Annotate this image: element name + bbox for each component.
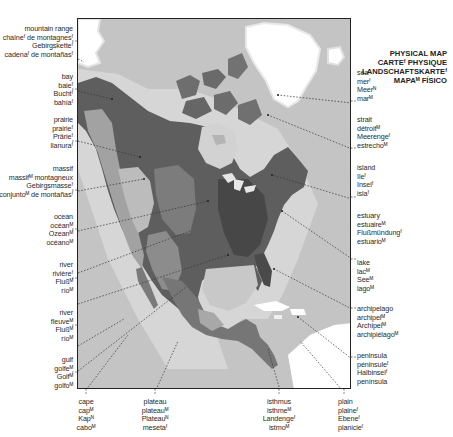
term-es: planicieᶠ xyxy=(338,424,363,433)
term-es: archipiélagoᴹ xyxy=(357,331,398,340)
term-es: lagoᴹ xyxy=(357,285,374,294)
label-mountain-range: mountain range chaîneᶠ de montagnesᶠ Geb… xyxy=(3,25,73,59)
label-isthmus: isthmus isthmeᴹ Landengeᶠ istmoᴹ xyxy=(252,398,306,432)
relief-map xyxy=(78,19,351,389)
term-es: mesetaᶠ xyxy=(130,424,180,433)
title-french: CARTEᶠ PHYSIQUE xyxy=(362,58,447,67)
term-es: península xyxy=(357,378,388,387)
term-es: ríoᴹ xyxy=(51,335,73,344)
label-gulf: gulf golfeᴹ Golfᴹ golfoᴹ xyxy=(54,356,73,390)
term-es: golfoᴹ xyxy=(54,382,73,391)
term-es: islaᶠ xyxy=(357,190,375,199)
label-massif: massif massifᴹ montagneux Gebirgsmasseᶠ … xyxy=(0,165,73,199)
label-river-tributary: river rivièreᶠ Flußᴹ ríoᴹ xyxy=(53,261,73,295)
term-es: conjuntoᴹ de montañasᶠ xyxy=(0,191,73,200)
label-strait: strait détroitᴹ Meerengeᶠ estrechoᴹ xyxy=(357,116,390,150)
term-es: océanoᴹ xyxy=(46,239,73,248)
label-ocean: ocean océanᴹ Ozeanᴹ océanoᴹ xyxy=(46,213,73,247)
term-es: llanuraᶠ xyxy=(51,142,73,151)
label-cape: cape capᴹ Kapᴺ caboᴹ xyxy=(66,398,106,432)
label-plateau: plateau plateauᴹ Plateauᴺ mesetaᶠ xyxy=(130,398,180,432)
term-es: ríoᴹ xyxy=(53,287,73,296)
label-sea: sea merᶠ Meerᴺ marᴹ xyxy=(357,69,376,103)
label-prairie: prairie prairieᶠ Prärieᶠ llanuraᶠ xyxy=(51,116,73,150)
physical-map-north-america xyxy=(77,18,351,389)
label-river-main: river fleuveᴹ Flußᴹ ríoᴹ xyxy=(51,309,73,343)
label-archipelago: archipelago archipelᴹ Archipelᴹ archipié… xyxy=(357,305,398,339)
term-es: bahíaᶠ xyxy=(54,99,73,108)
term-es: cadenaᶠ de montañasᶠ xyxy=(3,51,73,60)
label-bay: bay baieᶠ Buchtᶠ bahíaᶠ xyxy=(54,73,73,107)
term-es: caboᴹ xyxy=(66,424,106,433)
term-es: marᴹ xyxy=(357,95,376,104)
label-estuary: estuary estuaireᴹ Flußmündungᶠ estuarioᴹ xyxy=(357,212,402,246)
term-es: estuarioᴹ xyxy=(357,238,402,247)
title-english: PHYSICAL MAP xyxy=(362,49,447,58)
label-plain: plain plaineᶠ Ebeneᶠ planicieᶠ xyxy=(338,398,363,432)
label-lake: lake lacᴹ Seeᴹ lagoᴹ xyxy=(357,259,374,293)
label-peninsula: peninsula péninsuleᶠ Halbinselᶠ penínsul… xyxy=(357,352,388,386)
label-island: island îleᶠ Inselᶠ islaᶠ xyxy=(357,164,375,198)
term-es: estrechoᴹ xyxy=(357,142,390,151)
term-es: istmoᴹ xyxy=(252,424,306,433)
